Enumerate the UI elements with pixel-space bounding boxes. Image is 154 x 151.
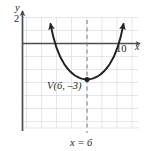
- parabola-left-branch: [51, 24, 88, 80]
- axis-of-symmetry-label: x = 6: [69, 137, 93, 148]
- vertex-point: [85, 77, 90, 82]
- x-tick-label-10: 10: [116, 43, 127, 54]
- x-axis-label: x: [134, 41, 140, 52]
- parabola-graph-figure: y 2 10 x V(6, –3) x = 6: [0, 0, 154, 151]
- graph-canvas: y 2 10 x V(6, –3) x = 6: [0, 0, 154, 151]
- vertex-label: V(6, –3): [47, 80, 82, 92]
- y-axis-label: y: [14, 2, 20, 13]
- y-tick-label-2: 2: [14, 13, 19, 24]
